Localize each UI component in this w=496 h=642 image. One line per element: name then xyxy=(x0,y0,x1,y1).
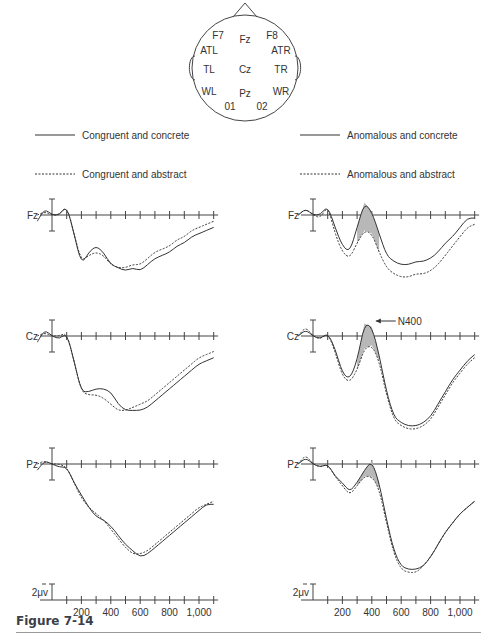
time-tick-label: 200 xyxy=(334,607,351,618)
legend: Congruent and concrete Congruent and abs… xyxy=(35,130,458,180)
channel-pz: Pz xyxy=(287,448,479,573)
erp-figure: F7FzF8ATLATRTLCzTRWLPzWR0102 Congruent a… xyxy=(0,0,496,642)
electrode-labels: F7FzF8ATLATRTLCzTRWLPzWR0102 xyxy=(200,30,290,112)
legend-label: Anomalous and concrete xyxy=(347,130,458,141)
amplitude-scale-label: 2μv xyxy=(32,587,48,598)
electrode-label: TR xyxy=(274,64,287,75)
head-map: F7FzF8ATLATRTLCzTRWLPzWR0102 xyxy=(189,3,300,121)
legend-label: Congruent and concrete xyxy=(82,130,190,141)
erp-plots: FzCzPz2004006008001,0002μvFzCzN400Pz2004… xyxy=(26,199,479,618)
electrode-label: ATR xyxy=(271,45,290,56)
waveform-dashed xyxy=(298,457,474,572)
n400-label: N400 xyxy=(398,316,422,327)
time-tick-label: 400 xyxy=(363,607,380,618)
channel-pz: Pz xyxy=(26,448,218,556)
channel-cz: Cz xyxy=(26,320,218,410)
electrode-label: WR xyxy=(273,86,290,97)
electrode-label: ATL xyxy=(200,45,218,56)
congruent-panel: FzCzPz2004006008001,0002μv xyxy=(26,199,218,618)
time-tick-label: 600 xyxy=(393,607,410,618)
time-tick-label: 1,000 xyxy=(186,607,211,618)
electrode-label: 02 xyxy=(256,101,268,112)
caption-rule xyxy=(16,632,481,633)
waveform-solid xyxy=(298,325,474,426)
figure-caption: Figure 7-14 xyxy=(16,614,94,628)
time-axis: 2004006008001,0002μv xyxy=(32,584,218,618)
time-tick-label: 600 xyxy=(132,607,149,618)
electrode-label: Pz xyxy=(239,88,251,99)
legend-label: Congruent and abstract xyxy=(82,169,187,180)
channel-cz: CzN400 xyxy=(287,316,479,429)
channel-fz: Fz xyxy=(288,199,479,277)
waveform-solid xyxy=(37,332,213,411)
electrode-label: Fz xyxy=(239,34,250,45)
channel-fz: Fz xyxy=(27,199,218,270)
electrode-label: Cz xyxy=(239,64,251,75)
waveform-dashed xyxy=(298,329,474,429)
waveform-solid xyxy=(37,462,213,556)
channel-label: Pz xyxy=(26,459,38,470)
time-tick-label: 1,000 xyxy=(447,607,472,618)
electrode-label: WL xyxy=(202,86,217,97)
channel-label: Cz xyxy=(287,331,299,342)
channel-label: Cz xyxy=(26,331,38,342)
electrode-label: TL xyxy=(203,64,215,75)
time-tick-label: 400 xyxy=(102,607,119,618)
amplitude-scale-label: 2μv xyxy=(293,587,309,598)
time-tick-label: 800 xyxy=(161,607,178,618)
waveform-dashed xyxy=(298,210,474,277)
arrow-left-icon xyxy=(376,319,381,324)
time-tick-label: 800 xyxy=(422,607,439,618)
electrode-label: F8 xyxy=(266,30,278,41)
channel-label: Fz xyxy=(27,210,38,221)
waveform-dashed xyxy=(37,462,213,554)
legend-label: Anomalous and abstract xyxy=(347,169,455,180)
waveform-dashed xyxy=(37,334,213,411)
electrode-label: 01 xyxy=(224,101,236,112)
channel-label: Fz xyxy=(288,210,299,221)
waveform-solid xyxy=(298,459,474,569)
anomalous-panel: FzCzN400Pz2004006008001,0002μv xyxy=(287,199,479,618)
channel-label: Pz xyxy=(287,459,299,470)
electrode-label: F7 xyxy=(212,30,224,41)
time-axis: 2004006008001,0002μv xyxy=(293,584,479,618)
